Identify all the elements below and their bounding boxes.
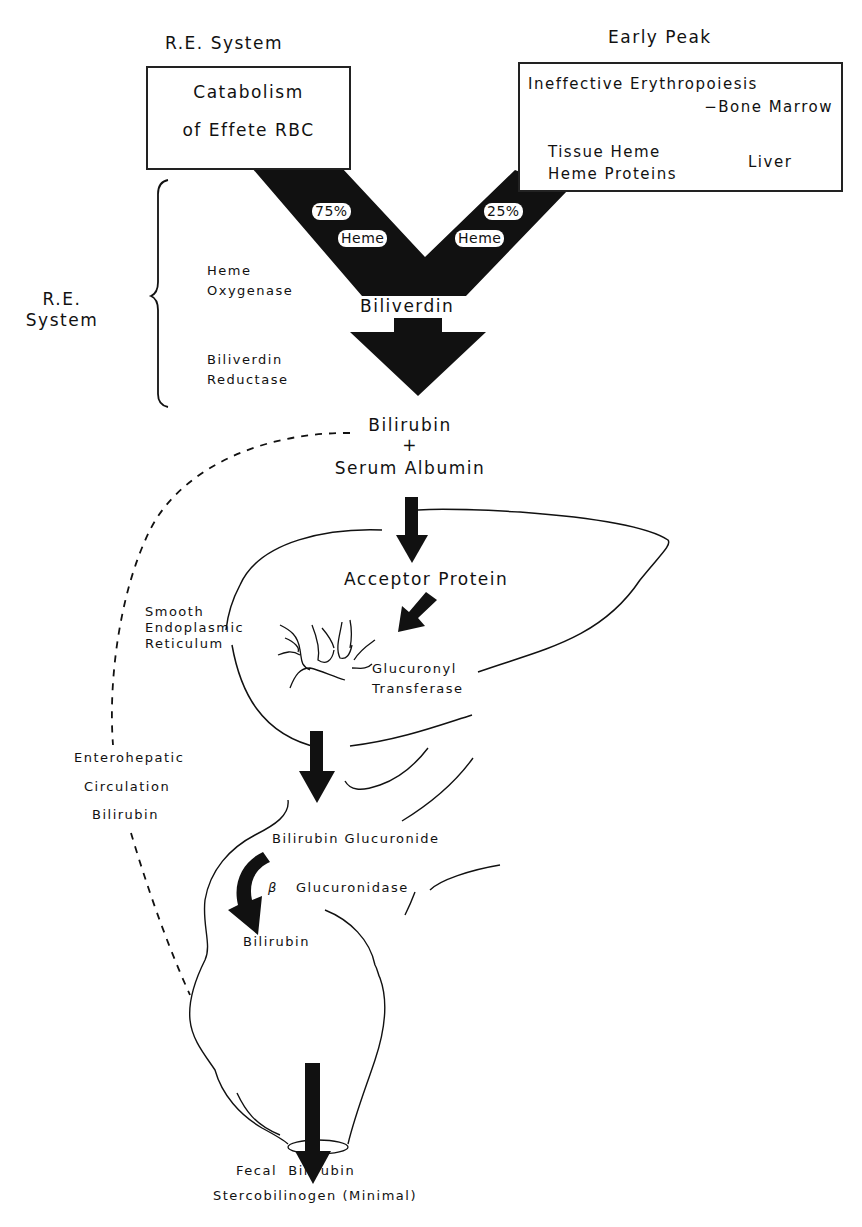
ser-line1: Smooth — [145, 605, 204, 620]
intestine-outline — [190, 748, 500, 1144]
intestinal-bilirubin-label: Bilirubin — [243, 935, 310, 950]
curved-glucuronidase-arrow — [228, 852, 270, 935]
re-system-side-label-1: R.E. — [22, 290, 102, 310]
albumin-arrow-head — [396, 535, 428, 563]
ser-line3: Reticulum — [145, 637, 224, 652]
bilirubin-glucuronide-label: Bilirubin Glucuronide — [272, 832, 440, 847]
biliverdin-arrow-head — [350, 332, 486, 396]
re-system-side-label-2: System — [22, 311, 102, 331]
biliverdin-arrow-stem — [394, 318, 442, 334]
bilirubin-label: Bilirubin — [330, 416, 490, 436]
bone-marrow: −Bone Marrow — [704, 99, 833, 116]
heme-75-percent: 75% — [312, 203, 351, 220]
heme-oxygenase-line1: Heme — [207, 264, 251, 279]
enterohepatic-line1: Enterohepatic — [74, 751, 184, 766]
beta-glucuronidase-label: Glucuronidase — [296, 881, 409, 896]
heme-left-label: Heme — [338, 230, 387, 247]
acceptor-protein-label: Acceptor Protein — [344, 570, 508, 590]
serum-albumin-label: Serum Albumin — [310, 459, 510, 479]
fecal-arrow-stem — [305, 1063, 320, 1153]
biliverdin-reductase-line2: Reductase — [207, 373, 288, 388]
biliverdin-label: Biliverdin — [358, 297, 456, 317]
ser-line2: Endoplasmic — [145, 621, 244, 636]
liver-outline — [226, 509, 669, 748]
liver-exit-arrow-head — [299, 771, 335, 803]
heme-25-percent: 25% — [484, 203, 523, 220]
biliverdin-reductase-line1: Biliverdin — [207, 353, 283, 368]
rbc-catabolism-box: Catabolism of Effete RBC — [146, 66, 351, 170]
early-peak-box: Ineffective Erythropoiesis −Bone Marrow … — [518, 62, 843, 192]
rbc-box-line1: Catabolism — [148, 83, 349, 103]
re-system-title: R.E. System — [165, 34, 283, 54]
liver-source-label: Liver — [748, 154, 792, 171]
albumin-arrow-stem — [405, 497, 418, 537]
ineffective-erythropoiesis: Ineffective Erythropoiesis — [528, 76, 758, 93]
heme-right-label: Heme — [455, 230, 504, 247]
plus-sign: + — [330, 436, 490, 456]
enterohepatic-line3: Bilirubin — [92, 808, 159, 823]
acceptor-arrow — [398, 592, 437, 632]
fecal-bilirubin-label: Fecal Bilirubin — [236, 1164, 355, 1179]
beta-symbol: β — [268, 881, 278, 896]
early-peak-title: Early Peak — [608, 28, 712, 48]
liver-exit-arrow-stem — [310, 731, 323, 773]
stercobilinogen-label: Stercobilinogen (Minimal) — [213, 1189, 417, 1204]
re-system-brace — [151, 180, 168, 407]
heme-oxygenase-line2: Oxygenase — [207, 284, 293, 299]
rbc-box-line2: of Effete RBC — [148, 121, 349, 141]
heme-proteins: Heme Proteins — [548, 166, 677, 183]
smooth-er-squiggle — [278, 620, 375, 688]
glucuronyl-transferase-line2: Transferase — [372, 682, 464, 697]
glucuronyl-transferase-line1: Glucuronyl — [372, 662, 457, 677]
bilirubin-metabolism-diagram: R.E. System Early Peak Catabolism of Eff… — [0, 0, 862, 1227]
enterohepatic-line2: Circulation — [84, 780, 170, 795]
tissue-heme: Tissue Heme — [548, 144, 661, 161]
